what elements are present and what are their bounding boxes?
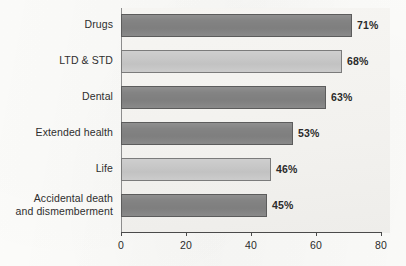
x-tick-label: 60 [296, 239, 336, 251]
value-label: 68% [347, 55, 369, 67]
bar-row: Extended health 53% [0, 122, 406, 146]
bar[interactable] [121, 14, 352, 37]
x-tick-mark [186, 232, 187, 236]
x-tick-label: 0 [101, 239, 141, 251]
category-label: Life [0, 162, 113, 175]
bar-row: Life 46% [0, 158, 406, 182]
x-tick-label: 40 [231, 239, 271, 251]
bar-row: Drugs 71% [0, 14, 406, 38]
category-label: Dental [0, 90, 113, 103]
bar[interactable] [121, 122, 293, 145]
x-tick-mark [381, 232, 382, 236]
x-tick-mark [316, 232, 317, 236]
x-tick-label: 20 [166, 239, 206, 251]
bar-row: Accidental death and dismemberment 45% [0, 194, 406, 218]
value-label: 63% [331, 91, 353, 103]
bar[interactable] [121, 50, 342, 73]
value-label: 53% [298, 127, 320, 139]
x-tick-mark [121, 232, 122, 236]
x-tick-label: 80 [361, 239, 401, 251]
bar-row: Dental 63% [0, 86, 406, 110]
bar-row: LTD & STD 68% [0, 50, 406, 74]
category-label: LTD & STD [0, 54, 113, 67]
value-label: 46% [276, 163, 298, 175]
category-label: Drugs [0, 18, 113, 31]
bar-chart-figure: Drugs 71% LTD & STD 68% Dental 63% Exten… [0, 0, 406, 266]
bar[interactable] [121, 194, 267, 217]
value-label: 45% [272, 199, 294, 211]
x-tick-mark [251, 232, 252, 236]
bar[interactable] [121, 86, 326, 109]
category-label: Extended health [0, 126, 113, 139]
value-label: 71% [357, 19, 379, 31]
bar[interactable] [121, 158, 271, 181]
category-label: Accidental death and dismemberment [0, 192, 113, 217]
